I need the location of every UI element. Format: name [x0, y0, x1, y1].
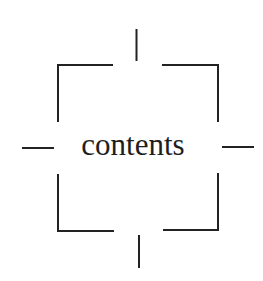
- bottom-right-corner-bracket: [163, 173, 218, 230]
- contents-label: contents: [58, 127, 208, 163]
- top-left-corner-bracket: [58, 65, 113, 122]
- bottom-left-corner-bracket: [58, 174, 114, 231]
- top-right-corner-bracket: [162, 65, 218, 122]
